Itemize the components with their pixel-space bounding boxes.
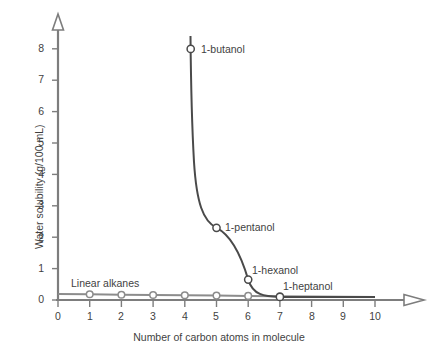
series-linear-alkanes bbox=[58, 291, 375, 300]
y-tick-label-6: 6 bbox=[30, 106, 44, 117]
x-tick-label-9: 9 bbox=[333, 311, 353, 322]
annotation-1-heptanol: 1-heptanol bbox=[283, 280, 333, 292]
x-tick-label-10: 10 bbox=[365, 311, 385, 322]
annotation-1-pentanol: 1-pentanol bbox=[225, 221, 275, 233]
y-axis bbox=[53, 14, 64, 300]
x-tick-label-5: 5 bbox=[206, 311, 226, 322]
x-tick-label-1: 1 bbox=[80, 311, 100, 322]
annotation-1-butanol: 1-butanol bbox=[201, 43, 245, 55]
y-axis-title: Water solubility (g/100 mL) bbox=[33, 125, 45, 250]
x-tick-label-7: 7 bbox=[270, 311, 290, 322]
marker-1-butanol bbox=[187, 45, 194, 52]
x-tick-label-2: 2 bbox=[111, 311, 131, 322]
annotation-linear-alkanes: Linear alkanes bbox=[71, 277, 139, 289]
x-tick-label-0: 0 bbox=[48, 311, 68, 322]
y-tick-label-1: 1 bbox=[30, 263, 44, 274]
x-axis-title: Number of carbon atoms in molecule bbox=[0, 331, 438, 343]
x-tick-label-6: 6 bbox=[238, 311, 258, 322]
y-tick-label-7: 7 bbox=[30, 74, 44, 85]
marker-1-heptanol bbox=[276, 293, 283, 300]
marker-1-hexanol bbox=[245, 276, 252, 283]
solubility-chart: 8 7 6 5 4 3 2 1 0 0 1 2 3 4 5 6 7 8 9 10… bbox=[0, 0, 438, 353]
marker-1-pentanol bbox=[213, 224, 220, 231]
x-tick-label-4: 4 bbox=[175, 311, 195, 322]
annotation-1-hexanol: 1-hexanol bbox=[252, 264, 298, 276]
x-tick-label-8: 8 bbox=[302, 311, 322, 322]
alcohol-markers bbox=[187, 45, 283, 300]
series-alcohols bbox=[187, 36, 375, 301]
x-tick-label-3: 3 bbox=[143, 311, 163, 322]
y-tick-label-8: 8 bbox=[30, 43, 44, 54]
y-tick-label-0: 0 bbox=[30, 294, 44, 305]
